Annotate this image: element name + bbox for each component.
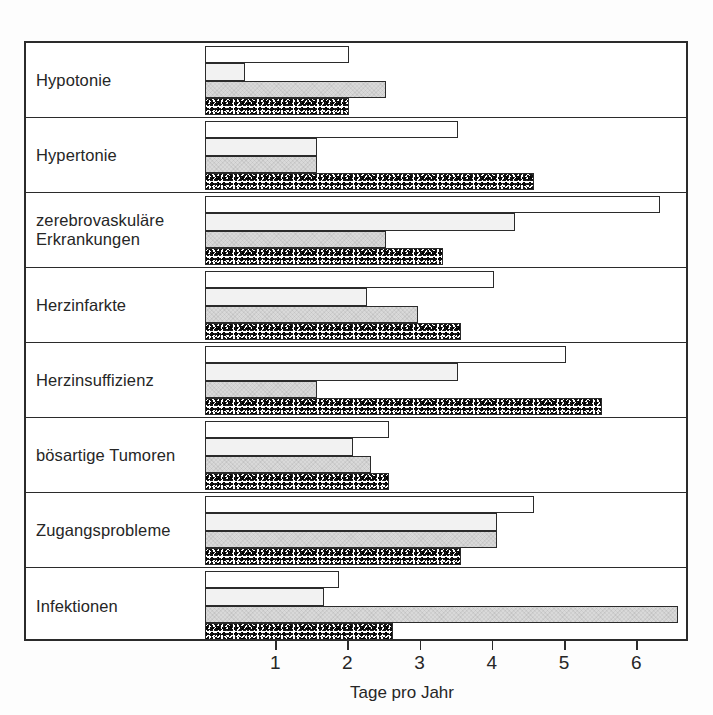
bar-group (205, 343, 686, 417)
bar-series-4 (205, 623, 393, 640)
x-axis-tick-label: 1 (260, 652, 290, 674)
category-row: Infektionen (26, 568, 686, 643)
category-row: Herzinfarkte (26, 268, 686, 343)
bar-series-1 (205, 496, 534, 513)
bar-series-4 (205, 248, 443, 265)
category-row: bösartige Tumoren (26, 418, 686, 493)
bar-series-4 (205, 398, 602, 415)
x-axis-tick-label: 4 (477, 652, 507, 674)
bar-series-2 (205, 213, 515, 230)
bar-group (205, 268, 686, 342)
category-label: Infektionen (36, 596, 204, 615)
bar-series-1 (205, 346, 566, 363)
bar-series-4 (205, 323, 461, 340)
bar-group (205, 43, 686, 117)
category-label: Zugangsprobleme (36, 521, 204, 540)
x-axis-tick (492, 641, 494, 650)
category-label: Herzinfarkte (36, 296, 204, 315)
category-row: Zugangsprobleme (26, 493, 686, 568)
bar-group (205, 493, 686, 567)
x-axis-tick (636, 641, 638, 650)
bar-series-4 (205, 548, 461, 565)
x-axis-tick-label: 5 (549, 652, 579, 674)
bar-group (205, 193, 686, 267)
bar-series-3 (205, 231, 386, 248)
category-label: bösartige Tumoren (36, 446, 204, 465)
category-label: Hypotonie (36, 71, 204, 90)
bar-series-2 (205, 513, 497, 530)
bar-series-1 (205, 421, 389, 438)
bar-series-3 (205, 306, 418, 323)
x-axis-title: Tage pro Jahr (24, 683, 688, 703)
x-axis-tick (420, 641, 422, 650)
bar-series-2 (205, 588, 324, 605)
x-axis: 123456Tage pro Jahr (24, 641, 688, 715)
category-row: Hypotonie (26, 43, 686, 118)
bar-series-1 (205, 271, 494, 288)
bar-series-4 (205, 173, 534, 190)
bar-series-3 (205, 156, 317, 173)
x-axis-tick (275, 641, 277, 650)
bar-series-1 (205, 196, 660, 213)
bar-series-3 (205, 606, 678, 623)
bar-series-2 (205, 288, 367, 305)
bar-series-2 (205, 63, 245, 80)
bar-series-3 (205, 456, 371, 473)
category-row: Herzinsuffizienz (26, 343, 686, 418)
bar-series-4 (205, 98, 349, 115)
x-axis-tick-label: 3 (405, 652, 435, 674)
category-row: Hypertonie (26, 118, 686, 193)
plot-area: HypotonieHypertoniezerebrovaskuläre Erkr… (24, 41, 688, 641)
bar-series-1 (205, 571, 339, 588)
category-label: Herzinsuffizienz (36, 371, 204, 390)
bar-series-1 (205, 46, 349, 63)
bar-series-3 (205, 531, 497, 548)
bar-series-1 (205, 121, 458, 138)
x-axis-tick (347, 641, 349, 650)
bar-group (205, 568, 686, 643)
bar-series-3 (205, 381, 317, 398)
bar-series-2 (205, 363, 458, 380)
bar-group (205, 118, 686, 192)
x-axis-tick-label: 6 (621, 652, 651, 674)
x-axis-tick-label: 2 (332, 652, 362, 674)
bar-series-2 (205, 438, 353, 455)
category-label: Hypertonie (36, 146, 204, 165)
bar-series-2 (205, 138, 317, 155)
x-axis-tick (564, 641, 566, 650)
category-row: zerebrovaskuläre Erkrankungen (26, 193, 686, 268)
bar-series-4 (205, 473, 389, 490)
bar-group (205, 418, 686, 492)
bar-series-3 (205, 81, 386, 98)
bar-chart-figure: HypotonieHypertoniezerebrovaskuläre Erkr… (0, 0, 713, 715)
category-label: zerebrovaskuläre Erkrankungen (36, 211, 204, 249)
